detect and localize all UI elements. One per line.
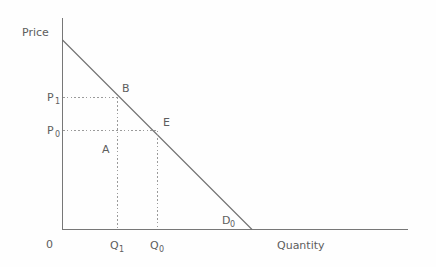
quantity-tick-q0-main: Q [150, 239, 159, 252]
price-tick-p0: P 0 [47, 124, 60, 139]
curve-label-d0: D 0 [222, 214, 235, 229]
quantity-tick-q0: Q 0 [150, 239, 164, 254]
price-tick-p1: P 1 [47, 91, 60, 106]
quantity-tick-q1: Q 1 [110, 239, 124, 254]
price-tick-p0-sub: 0 [55, 130, 60, 139]
price-tick-p1-main: P [47, 91, 54, 104]
point-label-a: A [102, 143, 110, 156]
quantity-tick-q1-main: Q [110, 239, 119, 252]
demand-diagram-svg: Price Quantity 0 P 1 P 0 Q 1 Q 0 B E A [0, 0, 436, 267]
quantity-tick-q0-sub: 0 [159, 245, 164, 254]
demand-curve-diagram: Price Quantity 0 P 1 P 0 Q 1 Q 0 B E A [0, 0, 436, 267]
point-label-e: E [163, 116, 170, 129]
x-axis-title: Quantity [277, 239, 325, 252]
price-tick-p1-sub: 1 [55, 97, 60, 106]
quantity-tick-q1-sub: 1 [119, 245, 124, 254]
y-axis-title: Price [22, 26, 49, 39]
point-label-b: B [122, 82, 130, 95]
price-tick-p0-main: P [47, 124, 54, 137]
curve-label-d0-sub: 0 [230, 220, 235, 229]
origin-label: 0 [46, 238, 53, 251]
